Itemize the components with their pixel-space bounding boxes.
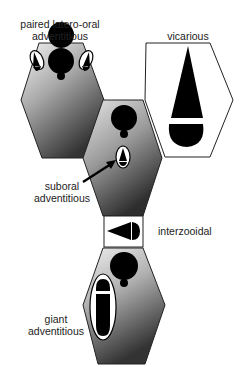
zooid-bottom — [83, 248, 165, 364]
operculum-icon — [111, 105, 137, 131]
label-line: suboral — [34, 180, 90, 192]
label-vicarious: vicarious — [160, 30, 216, 42]
giant-avicularium — [90, 274, 116, 340]
label-line: paired latero-oral — [10, 18, 110, 30]
interzooidal-avicularium — [104, 216, 143, 247]
label-giant: giant adventitious — [26, 313, 86, 337]
label-line: adventitious — [10, 30, 110, 42]
label-suboral: suboral adventitious — [34, 180, 90, 204]
label-paired-latero-oral: paired latero-oral adventitious — [10, 18, 110, 42]
label-line: adventitious — [34, 192, 90, 204]
vicarious-zooid — [145, 43, 233, 157]
label-interzooidal: interzooidal — [158, 225, 218, 237]
operculum-icon — [48, 48, 74, 74]
label-line: giant — [26, 313, 86, 325]
suboral-avicularium — [116, 146, 130, 168]
label-line: adventitious — [26, 325, 86, 337]
operculum-icon — [110, 252, 138, 280]
